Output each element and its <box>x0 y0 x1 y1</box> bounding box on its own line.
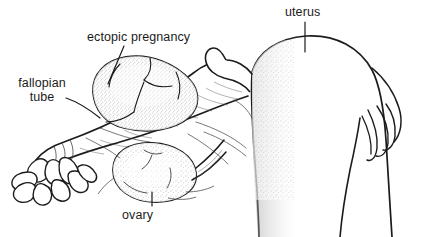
label-fallopian-tube: fallopiantube <box>6 76 78 104</box>
anatomy-illustration <box>0 0 426 237</box>
ovary-shape <box>98 140 226 206</box>
label-fallopian-tube-line2: tube <box>6 90 78 104</box>
fimbriae-shape <box>12 158 97 205</box>
label-ovary: ovary <box>122 208 153 222</box>
uterus-shape <box>248 34 392 237</box>
label-ectopic-pregnancy: ectopic pregnancy <box>87 30 190 44</box>
label-fallopian-tube-line1: fallopian <box>18 76 65 90</box>
figure-canvas: ectopic pregnancy uterus ovary fallopian… <box>0 0 426 237</box>
label-uterus: uterus <box>285 5 320 19</box>
